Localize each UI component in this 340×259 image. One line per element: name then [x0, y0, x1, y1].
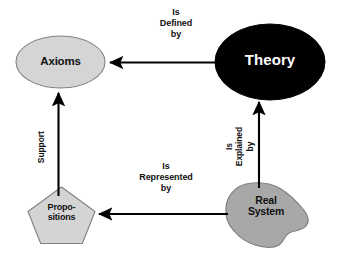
edge-label-theory-to-axioms: Is Defined by — [133, 7, 219, 40]
node-shape-propositions[interactable] — [28, 187, 95, 244]
diagram-canvas: Axioms Theory Propo- sitions Real System… — [0, 0, 340, 259]
node-shape-real-system[interactable] — [226, 183, 308, 247]
edge-label-propositions-to-axioms: Support — [36, 119, 46, 175]
node-shape-theory[interactable] — [215, 24, 325, 100]
node-shape-axioms[interactable] — [16, 36, 105, 88]
edge-label-real-system-to-theory: Is Explained by — [224, 104, 255, 190]
edge-label-real-system-to-propositions: Is Represented by — [111, 161, 221, 194]
